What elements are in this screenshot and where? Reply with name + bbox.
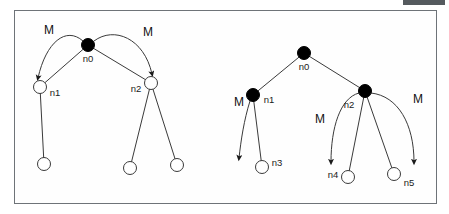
figure-root: MMn0n1n2 MMMn0n1n2n3n4n5: [0, 0, 449, 214]
figure-frame-border: [14, 10, 437, 204]
top-bar-decoration: [403, 0, 445, 5]
